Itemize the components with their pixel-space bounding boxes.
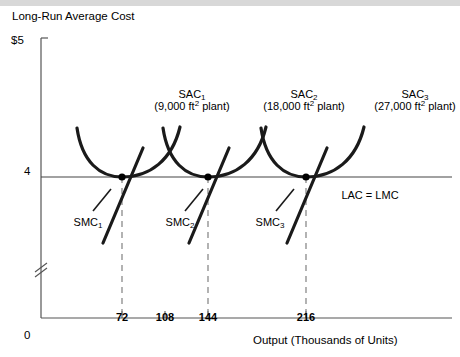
smc1-label: SMC1	[74, 216, 103, 228]
y-axis-lac-label: 4	[24, 165, 30, 177]
sac2-label: SAC2 (18,000 ft2 plant)	[263, 88, 345, 112]
x-tick-label-144: 144	[199, 311, 217, 323]
smc3-label: SMC3	[256, 216, 285, 228]
dashed-drop-lines	[122, 177, 306, 318]
sac3-plant-unit: ft	[415, 100, 421, 112]
smc2-label-sub: 2	[190, 221, 194, 230]
sac2-plant-exp: 2	[310, 99, 314, 108]
long-run-average-cost-figure: Long-Run Average Cost $5 4 0 72 108 144 …	[0, 0, 460, 357]
smc3-label-main: SMC	[256, 216, 280, 228]
smc1-label-main: SMC	[74, 216, 98, 228]
sac2-plant-suffix: plant)	[314, 100, 345, 112]
smc1-label-sub: 1	[98, 221, 102, 230]
smc3-curve	[287, 148, 327, 243]
x-tick-label-72: 72	[116, 311, 128, 323]
smc3-label-sub: 3	[280, 221, 284, 230]
y-axis-zero-label: 0	[24, 329, 30, 341]
y-axis-top-label: $5	[11, 34, 24, 46]
sac3-curve	[261, 127, 364, 177]
smc2-label: SMC2	[166, 216, 195, 228]
sac1-label-sub: 1	[201, 93, 205, 102]
smc1-curve	[103, 148, 143, 243]
x-tick-label-216: 216	[297, 311, 315, 323]
sac1-plant-exp: 2	[195, 99, 199, 108]
sac3-label: SAC3 (27,000 ft2 plant)	[374, 88, 456, 112]
sac3-plant-exp: 2	[421, 99, 425, 108]
sac1-plant-note: (9,000 ft2 plant)	[154, 100, 229, 112]
chart-title: Long-Run Average Cost	[12, 10, 135, 22]
cost-curve-plot	[0, 0, 460, 357]
sac2-plant-unit: ft	[304, 100, 310, 112]
lac-lmc-label: LAC = LMC	[341, 189, 398, 201]
smc2-curve	[189, 148, 229, 243]
smc2-label-main: SMC	[166, 216, 190, 228]
sac2-plant-size: 18,000	[267, 100, 301, 112]
sac3-plant-size: 27,000	[378, 100, 412, 112]
sac3-plant-suffix: plant)	[425, 100, 456, 112]
sac3-plant-note: (27,000 ft2 plant)	[374, 100, 456, 112]
x-axis-title: Output (Thousands of Units)	[253, 334, 397, 346]
sac1-plant-size: 9,000	[158, 100, 186, 112]
x-tick-label-108: 108	[156, 311, 174, 323]
sac2-plant-note: (18,000 ft2 plant)	[263, 100, 345, 112]
sac1-label: SAC1 (9,000 ft2 plant)	[154, 88, 229, 112]
